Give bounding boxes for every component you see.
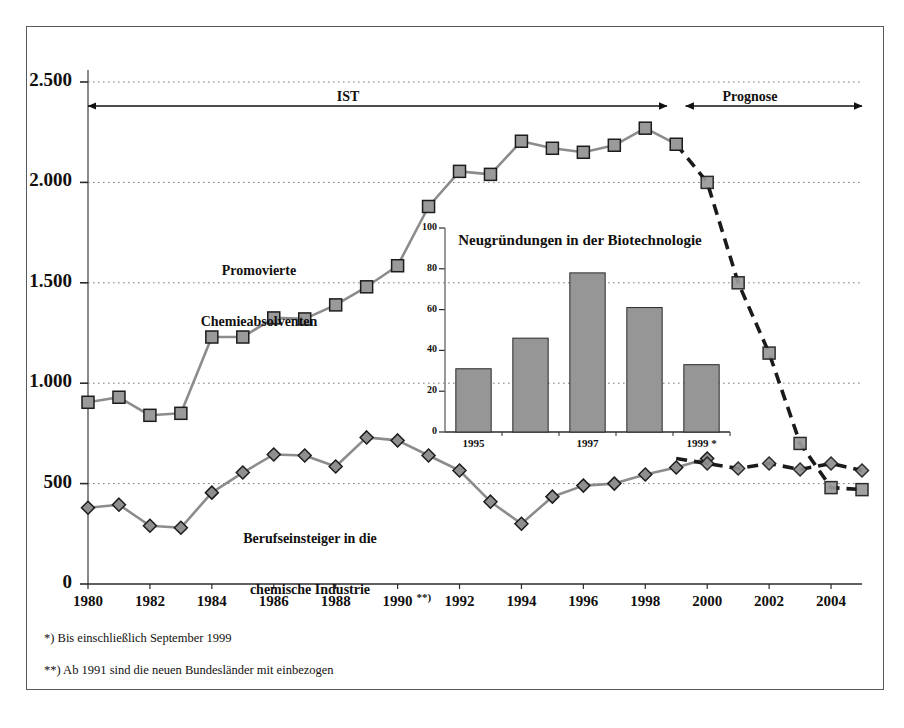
x-axis-tick-annotation: **) xyxy=(417,591,432,603)
y-axis-tick-label: 0 xyxy=(0,571,72,593)
inset-x-axis-tick-label: 1997 xyxy=(548,437,628,449)
inset-y-axis-tick-label: 60 xyxy=(401,303,437,314)
chart-canvas xyxy=(0,0,904,728)
footnote-double-asterisk: **) Ab 1991 sind die neuen Bundesländer … xyxy=(44,663,334,678)
series-label-line-1: Berufseinsteiger in die xyxy=(218,530,402,547)
y-axis-tick-label: 1.000 xyxy=(0,370,72,392)
phase-label-ist: IST xyxy=(318,89,378,105)
inset-bar-chart xyxy=(439,228,730,436)
y-axis-tick-label: 500 xyxy=(0,471,72,493)
inset-x-axis-tick-label: 1999 * xyxy=(662,437,742,449)
y-axis-tick-label: 1.500 xyxy=(0,270,72,292)
footnote-asterisk: *) Bis einschließlich September 1999 xyxy=(44,631,231,646)
y-axis-tick-label: 2.500 xyxy=(0,69,72,91)
series-label-promovierte-chemieabsolventen: Promovierte Chemieabsolventen xyxy=(176,228,342,348)
inset-y-axis-tick-label: 20 xyxy=(401,384,437,395)
series-label-line-2: Chemieabsolventen xyxy=(176,313,342,330)
phase-label-prognose: Prognose xyxy=(700,89,800,105)
y-axis-tick-label: 2.000 xyxy=(0,169,72,191)
series-label-line-1: Promovierte xyxy=(176,262,342,279)
series-label-berufseinsteiger: Berufseinsteiger in die chemische Indust… xyxy=(218,496,402,616)
inset-y-axis-tick-label: 80 xyxy=(401,262,437,273)
inset-chart-title: Neugründungen in der Biotechnologie xyxy=(430,232,730,249)
inset-y-axis-tick-label: 0 xyxy=(401,425,437,436)
x-axis-tick-label: 2004 xyxy=(791,593,871,610)
series-label-line-2: chemische Industrie xyxy=(218,581,402,598)
inset-x-axis-tick-label: 1995 xyxy=(434,437,514,449)
inset-y-axis-tick-label: 100 xyxy=(401,221,437,232)
inset-y-axis-tick-label: 40 xyxy=(401,343,437,354)
